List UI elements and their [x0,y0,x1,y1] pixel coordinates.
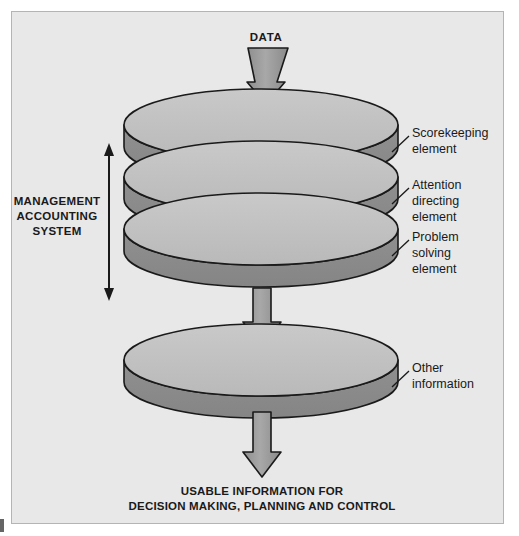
disc-label-scorekeeping-line1: Scorekeeping [412,126,488,140]
output-label-line1: USABLE INFORMATION FOR [181,485,344,497]
disc-label-attention-line1: Attention [412,178,461,192]
disc-label-other-line2: information [412,377,474,391]
disc-problem-solving [124,193,398,287]
data-input-label: DATA [250,31,283,43]
disc-label-problem-line2: solving [412,246,451,260]
management-label-line3: SYSTEM [32,225,81,237]
management-label-line1: MANAGEMENT [14,195,101,207]
disc-top-face [124,324,398,396]
disc-label-problem-line1: Problem [412,230,459,244]
disc-label-problem-line3: element [412,262,457,276]
disc-label-other-line1: Other [412,361,443,375]
output-label-line2: DECISION MAKING, PLANNING AND CONTROL [129,500,396,512]
disc-top-face [124,193,398,265]
disc-label-scorekeeping-line2: element [412,142,457,156]
disc-label-attention-line3: element [412,210,457,224]
management-label-line2: ACCOUNTING [17,210,98,222]
management-accounting-system-diagram: DATA MANAGEMENT ACCOUNTING SYSTEM Scorek… [0,0,519,536]
disc-other-information [124,324,398,418]
disc-label-attention-line2: directing [412,194,459,208]
figure-root: DATA MANAGEMENT ACCOUNTING SYSTEM Scorek… [0,0,519,536]
scan-edge-artifact [0,519,4,532]
